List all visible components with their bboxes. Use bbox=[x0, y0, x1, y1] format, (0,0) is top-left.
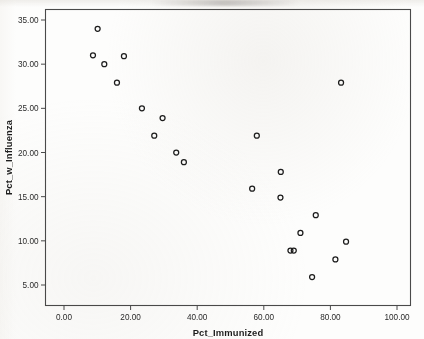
data-point bbox=[344, 239, 349, 244]
x-axis-title: Pct_Immunized bbox=[193, 327, 264, 338]
data-point bbox=[298, 230, 303, 235]
data-point bbox=[152, 133, 157, 138]
y-axis-tick-label: 20.00 bbox=[18, 149, 39, 158]
data-points-group bbox=[90, 26, 348, 279]
data-point bbox=[254, 133, 259, 138]
data-point bbox=[90, 53, 95, 58]
data-point bbox=[121, 54, 126, 59]
y-axis-group: 5.0010.0015.0020.0025.0030.0035.00 bbox=[18, 16, 46, 290]
y-axis-tick-label: 10.00 bbox=[18, 237, 39, 246]
data-point bbox=[102, 62, 107, 67]
data-point bbox=[310, 275, 315, 280]
data-point bbox=[291, 248, 296, 253]
x-axis-tick-label: 0.00 bbox=[56, 313, 72, 322]
plot-area-border bbox=[46, 10, 411, 306]
y-axis-tick-label: 25.00 bbox=[18, 104, 39, 113]
data-point bbox=[139, 106, 144, 111]
x-axis-tick-label: 100.00 bbox=[384, 313, 409, 322]
x-axis-tick-label: 40.00 bbox=[187, 313, 208, 322]
y-axis-tick-label: 30.00 bbox=[18, 60, 39, 69]
data-point bbox=[250, 186, 255, 191]
data-point bbox=[181, 160, 186, 165]
y-axis-title: Pct_w_Influenza bbox=[3, 119, 14, 195]
data-point bbox=[174, 150, 179, 155]
data-point bbox=[160, 116, 165, 121]
x-axis-tick-label: 60.00 bbox=[254, 313, 275, 322]
x-axis-tick-label: 80.00 bbox=[320, 313, 341, 322]
scatter-plot-figure: 0.0020.0040.0060.0080.00100.005.0010.001… bbox=[0, 0, 424, 339]
data-point bbox=[313, 213, 318, 218]
data-point bbox=[333, 257, 338, 262]
x-axis-group: 0.0020.0040.0060.0080.00100.00 bbox=[56, 306, 410, 323]
plot-frame-group bbox=[46, 10, 411, 306]
data-point bbox=[95, 26, 100, 31]
data-point bbox=[114, 80, 119, 85]
data-point bbox=[339, 80, 344, 85]
y-axis-tick-label: 5.00 bbox=[23, 281, 39, 290]
x-axis-tick-label: 20.00 bbox=[120, 313, 141, 322]
data-point bbox=[278, 169, 283, 174]
y-axis-tick-label: 35.00 bbox=[18, 16, 39, 25]
y-axis-tick-label: 15.00 bbox=[18, 193, 39, 202]
data-point bbox=[278, 195, 283, 200]
chart-canvas: 0.0020.0040.0060.0080.00100.005.0010.001… bbox=[0, 0, 424, 339]
